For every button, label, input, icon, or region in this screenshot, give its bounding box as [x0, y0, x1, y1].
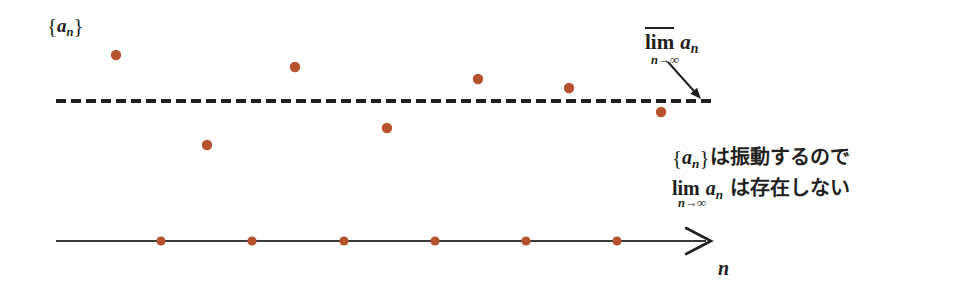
sequence-point [564, 83, 574, 93]
sequence-subscript: n [67, 25, 74, 39]
axis-tick-dot [339, 236, 348, 245]
annotation-limit-variable: a [706, 177, 716, 199]
limsup-operand-subscript: n [691, 41, 699, 56]
limsup-operator: lim [645, 27, 674, 53]
axis-label-n: n [718, 258, 729, 278]
brace-close: } [74, 14, 84, 38]
sequence-point [656, 107, 666, 117]
annotation-brace-open: { [672, 146, 682, 170]
sequence-point [290, 62, 300, 72]
limsup-subscript: n→∞ [651, 53, 679, 68]
axis-tick-dot [521, 236, 530, 245]
annotation-sequence-variable: a [682, 146, 692, 168]
infinity-symbol: ∞ [670, 53, 679, 67]
limsup-operand-variable: a [680, 30, 691, 54]
axis-tick-dot [247, 236, 256, 245]
right-arrow-icon: → [658, 53, 670, 67]
axis-tick-dot [430, 236, 439, 245]
annotation-line-2-text: は存在しない [730, 176, 850, 200]
limit-subscript-variable: n [651, 53, 658, 67]
sequence-label: {an} [47, 16, 84, 38]
axis-tick-dot [612, 236, 621, 245]
sequence-point [473, 74, 483, 84]
brace-open: { [47, 14, 57, 38]
sequence-variable: a [57, 15, 67, 36]
annotation-infinity-symbol: ∞ [697, 196, 706, 210]
limsup-figure: {an} liman n→∞ n {an}は振動するので limanは存在しない… [0, 0, 953, 288]
annotation-limit-subscript: n [716, 187, 723, 202]
annotation-line-1-text: は振動するので [710, 145, 850, 169]
axis-tick-dot [156, 236, 165, 245]
sequence-point [202, 140, 212, 150]
sequence-point [111, 50, 121, 60]
annotation-right-arrow-icon: → [685, 196, 697, 210]
annotation-limit-subscript-group: n→∞ [678, 196, 706, 211]
limsup-label: liman [645, 27, 698, 56]
annotation-brace-close: } [699, 146, 709, 170]
sequence-point [382, 123, 392, 133]
annotation-limit-sub-variable: n [678, 196, 685, 210]
annotation-line-1: {an}は振動するので [672, 143, 850, 174]
